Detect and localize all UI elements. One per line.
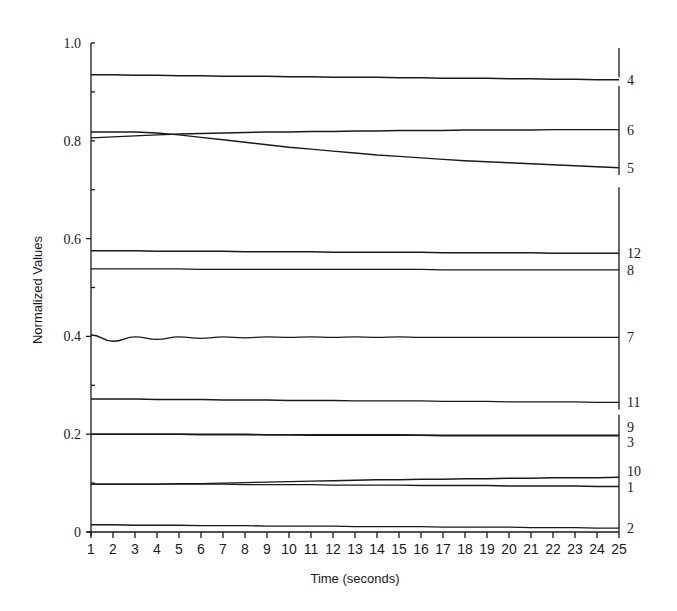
x-tick-label: 12 (325, 541, 341, 557)
x-axis-title: Time (seconds) (310, 571, 399, 586)
y-tick-label: 0.2 (64, 427, 82, 442)
x-tick-label: 5 (175, 541, 183, 557)
x-tick-label: 15 (391, 541, 407, 557)
series-label-4: 4 (627, 73, 634, 88)
x-tick-label: 3 (131, 541, 139, 557)
series-line-12 (91, 251, 619, 254)
y-tick-label: 0.8 (64, 134, 82, 149)
y-tick-label: 1.0 (64, 36, 82, 51)
x-tick-label: 17 (435, 541, 451, 557)
axes: 00.20.40.60.81.0123456789101112131415161… (64, 36, 627, 557)
x-tick-label: 9 (263, 541, 271, 557)
series-label-2: 2 (627, 521, 634, 536)
series-group (91, 75, 619, 528)
series-line-10 (91, 477, 619, 484)
y-tick-label: 0.6 (64, 232, 82, 247)
x-tick-label: 11 (304, 541, 319, 557)
series-labels: 465128711931012 (627, 73, 641, 536)
x-tick-label: 4 (153, 541, 161, 557)
series-line-7 (91, 335, 619, 341)
series-label-9: 9 (627, 420, 634, 435)
series-line-2 (91, 525, 619, 528)
series-label-12: 12 (627, 246, 641, 261)
x-tick-label: 6 (197, 541, 205, 557)
y-axis-title: Normalized Values (30, 235, 45, 344)
y-tick-label: 0 (74, 525, 81, 540)
series-line-11 (91, 399, 619, 402)
series-label-11: 11 (627, 395, 640, 410)
series-line-1 (91, 484, 619, 486)
x-tick-label: 7 (219, 541, 227, 557)
series-label-6: 6 (627, 123, 634, 138)
x-tick-label: 20 (501, 541, 517, 557)
x-tick-label: 18 (457, 541, 473, 557)
x-tick-label: 22 (545, 541, 561, 557)
x-tick-label: 16 (413, 541, 429, 557)
series-label-1: 1 (627, 480, 634, 495)
x-tick-label: 1 (87, 541, 95, 557)
series-label-5: 5 (627, 161, 634, 176)
series-line-4 (91, 75, 619, 80)
x-tick-label: 2 (109, 541, 117, 557)
x-tick-label: 25 (611, 541, 627, 557)
series-label-8: 8 (627, 263, 634, 278)
series-label-3: 3 (627, 435, 634, 450)
x-tick-label: 19 (479, 541, 495, 557)
x-tick-label: 8 (241, 541, 249, 557)
series-label-7: 7 (627, 330, 634, 345)
series-line-5 (91, 132, 619, 168)
y-tick-label: 0.4 (64, 329, 82, 344)
x-tick-label: 10 (281, 541, 297, 557)
x-tick-label: 21 (523, 541, 539, 557)
x-tick-label: 13 (347, 541, 363, 557)
x-tick-label: 14 (369, 541, 385, 557)
series-label-10: 10 (627, 464, 641, 479)
line-chart: 00.20.40.60.81.0123456789101112131415161… (0, 0, 677, 611)
series-line-8 (91, 269, 619, 270)
x-tick-label: 23 (567, 541, 583, 557)
x-tick-label: 24 (589, 541, 605, 557)
